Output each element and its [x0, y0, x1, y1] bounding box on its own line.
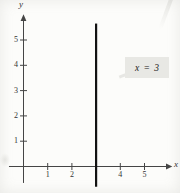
y-axis-arrow	[21, 14, 27, 21]
x-axis-label: x	[174, 159, 178, 170]
y-tick-label: 5	[0, 35, 18, 44]
y-tick-label: 1	[0, 136, 18, 145]
scan-artifact-bottom-left	[0, 153, 10, 167]
x-tick-label: 4	[118, 170, 122, 179]
x-axis-arrow	[166, 164, 172, 170]
figure-canvas: 1245 12345 y x x = 3	[0, 0, 180, 193]
plot-area	[0, 0, 180, 193]
y-tick-label: 3	[0, 86, 18, 95]
y-tick-label: 2	[0, 111, 18, 120]
y-tick-label: 4	[0, 60, 18, 69]
equation-annotation: x = 3	[125, 57, 169, 78]
x-tick-label: 2	[70, 170, 74, 179]
x-tick-label: 5	[143, 170, 147, 179]
x-tick-label: 1	[46, 170, 50, 179]
y-axis-label: y	[19, 0, 23, 10]
